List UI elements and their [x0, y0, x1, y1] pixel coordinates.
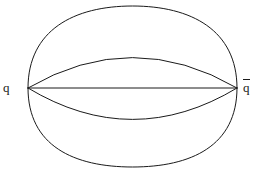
outer-upper-arc: [28, 6, 237, 88]
inner-upper-arc: [28, 58, 237, 89]
diagram-canvas: · · · · · · q q: [0, 0, 258, 169]
feynman-diagram-graphic: [0, 0, 258, 169]
outer-lower-arc: [28, 88, 237, 167]
inner-lower-arc: [28, 88, 237, 120]
quark-label: q: [3, 81, 10, 94]
antiquark-label: q: [243, 81, 250, 94]
antiquark-base-letter: q: [243, 80, 250, 95]
antiquark-overbar-group: q: [243, 81, 250, 94]
overbar-glyph: [243, 79, 251, 80]
